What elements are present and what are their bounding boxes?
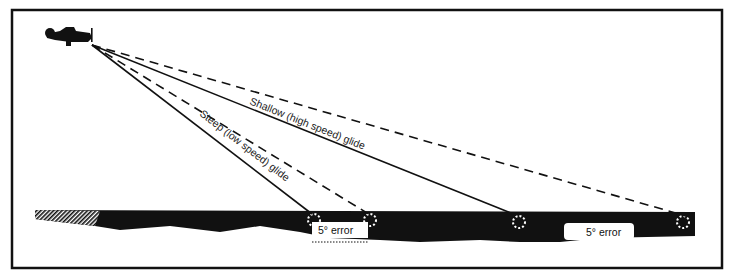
glide-diagram: Shallow (high speed) glide Steep (low sp… [0, 0, 733, 279]
airplane-icon [45, 27, 93, 46]
steep-glide-label: Steep (low speed) glide [198, 107, 292, 183]
shallow-glide-path [92, 45, 516, 215]
error-label-left: 5° error [318, 224, 354, 236]
steep-glide-path [92, 45, 312, 214]
shallow-glide-error-path [92, 45, 686, 216]
shallow-glide-label: Shallow (high speed) glide [248, 95, 367, 152]
error-label-right: 5° error [586, 226, 622, 238]
